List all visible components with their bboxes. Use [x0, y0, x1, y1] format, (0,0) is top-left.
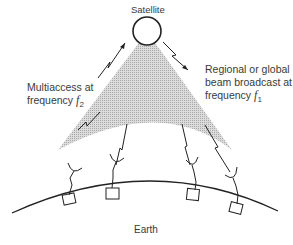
- broadcast-label-line1: Regional or global: [205, 63, 292, 76]
- broadcast-label-line2: beam broadcast at: [205, 76, 292, 89]
- diagram-canvas: [0, 0, 293, 245]
- multiaccess-label-line2: frequency f2: [27, 94, 94, 111]
- multiaccess-label: Multiaccess at frequency f2: [27, 81, 94, 111]
- satellite-label: Satellite: [131, 3, 165, 16]
- frequency-subscript: 2: [79, 100, 83, 109]
- ground-station-4: [205, 125, 243, 214]
- multiaccess-label-line1: Multiaccess at: [27, 81, 94, 94]
- satellite-icon: [133, 17, 161, 45]
- frequency-subscript: 1: [257, 95, 261, 104]
- ground-station-2: [106, 124, 127, 199]
- frequency-text: frequency: [27, 94, 76, 106]
- frequency-text: frequency: [205, 89, 254, 101]
- ground-station-3: [182, 124, 199, 201]
- earth-label: Earth: [134, 223, 158, 236]
- broadcast-label: Regional or global beam broadcast at fre…: [205, 63, 292, 106]
- broadcast-label-line3: frequency f1: [205, 89, 292, 106]
